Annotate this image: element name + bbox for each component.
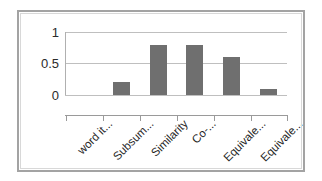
bar-similarity[interactable] <box>150 45 167 95</box>
bar-subsum[interactable] <box>113 82 130 95</box>
y-tick-label-0.5: 0.5 <box>41 57 59 70</box>
gridline-0 <box>65 95 287 96</box>
bar-equivale-2[interactable] <box>260 89 277 95</box>
chart-screenshot: 1 0.5 0 word it... <box>0 0 322 181</box>
x-label-cell: word it... <box>66 116 103 172</box>
y-tick-label-0: 0 <box>52 89 59 102</box>
bar-co[interactable] <box>186 45 203 95</box>
bar-slot <box>250 32 287 95</box>
bar-equivale-1[interactable] <box>223 57 240 95</box>
bar-slot <box>176 32 213 95</box>
bar-slot <box>213 32 250 95</box>
x-label-cell: Similarity <box>140 116 177 172</box>
bar-series <box>66 32 287 95</box>
x-label-cell: Equivale... <box>214 116 251 172</box>
plot-area: 1 0.5 0 <box>65 32 287 95</box>
bar-slot <box>140 32 177 95</box>
x-label-cell: Subsum... <box>103 116 140 172</box>
x-label-cell: Co-... <box>177 116 214 172</box>
x-tick-label-equivale-2: Equivale... <box>258 118 304 164</box>
chart-frame: 1 0.5 0 word it... <box>17 10 305 172</box>
bar-slot <box>66 32 103 95</box>
bar-slot <box>103 32 140 95</box>
x-axis-labels: word it... Subsum... Similarity Co-... E… <box>66 116 288 172</box>
x-label-cell: Equivale... <box>251 116 288 172</box>
y-tick-label-1: 1 <box>52 26 59 39</box>
